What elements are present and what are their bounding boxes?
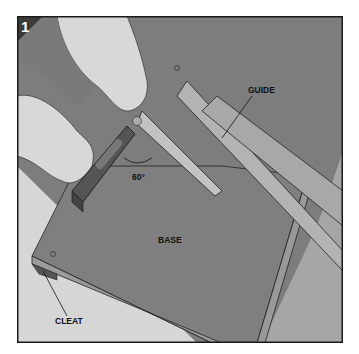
guide-label: GUIDE [248, 85, 275, 95]
thumbscrew [133, 117, 142, 126]
angle-label: 60° [132, 172, 145, 182]
illustration-frame: GUIDE 60° BASE CLEAT 1 [17, 16, 343, 343]
base-label: BASE [158, 235, 182, 245]
step-number: 1 [21, 18, 29, 35]
cleat-label: CLEAT [55, 316, 84, 326]
